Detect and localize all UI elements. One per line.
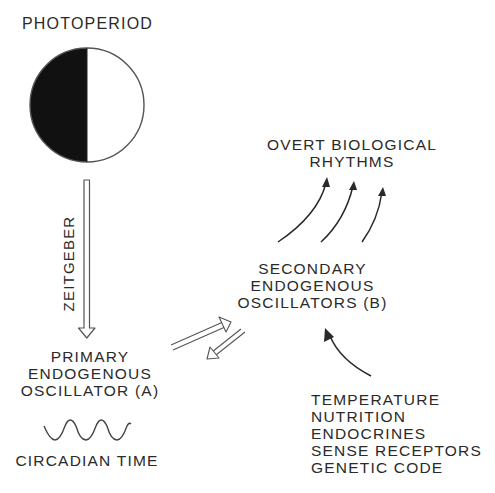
rhythm-arrowheads	[322, 177, 386, 196]
zeitgeber-label: ZEITGEBER	[60, 216, 77, 312]
bidirectional-arrows-icon	[171, 317, 245, 359]
overt-line-2: RHYTHMS	[266, 153, 438, 170]
circadian-time-label: CIRCADIAN TIME	[12, 452, 162, 469]
secondary-line-3: OSCILLATORS (B)	[230, 294, 395, 311]
sine-wave-icon	[44, 420, 131, 440]
rhythm-arrows-icon	[278, 183, 382, 242]
primary-line-1: PRIMARY	[10, 348, 170, 365]
influence-item: GENETIC CODE	[311, 459, 482, 476]
influence-item: TEMPERATURE	[311, 391, 482, 408]
primary-line-3: OSCILLATOR (A)	[10, 382, 170, 399]
influence-item: ENDOCRINES	[311, 425, 482, 442]
zeitgeber-arrow-icon	[79, 180, 96, 338]
secondary-line-2: ENDOGENOUS	[230, 277, 395, 294]
primary-oscillator-label: PRIMARY ENDOGENOUS OSCILLATOR (A)	[10, 348, 170, 399]
circadian-oscillator-diagram: PHOTOPERIOD ZEITGEBER PRIMARY ENDOGENOUS…	[0, 0, 495, 493]
secondary-oscillators-label: SECONDARY ENDOGENOUS OSCILLATORS (B)	[230, 260, 395, 311]
influence-arrow-icon	[324, 328, 371, 376]
primary-line-2: ENDOGENOUS	[10, 365, 170, 382]
overt-rhythms-label: OVERT BIOLOGICAL RHYTHMS	[266, 136, 438, 170]
influences-list: TEMPERATURE NUTRITION ENDOCRINES SENSE R…	[311, 391, 482, 476]
influence-item: NUTRITION	[311, 408, 482, 425]
overt-line-1: OVERT BIOLOGICAL	[266, 136, 438, 153]
secondary-line-1: SECONDARY	[230, 260, 395, 277]
half-dark-circle-icon	[30, 48, 144, 162]
influence-item: SENSE RECEPTORS	[311, 442, 482, 459]
photoperiod-label: PHOTOPERIOD	[20, 15, 155, 32]
